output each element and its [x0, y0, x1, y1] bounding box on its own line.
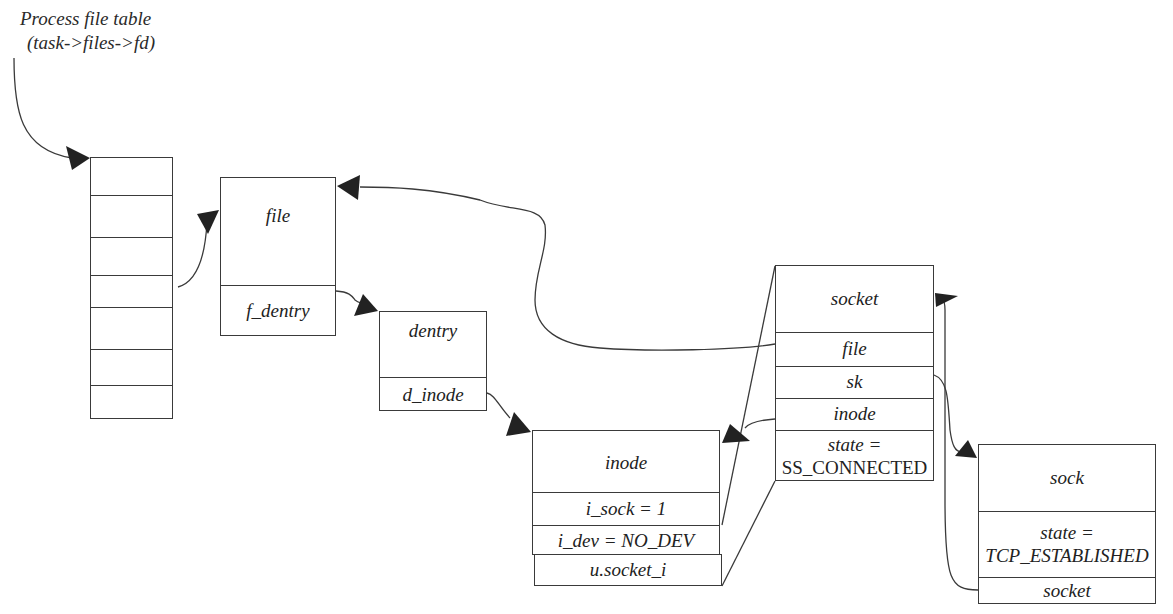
link-sk-to-sock: [934, 375, 962, 452]
link-caption-to-fdtable: [14, 58, 72, 158]
link-socketfile-to-file: [360, 187, 775, 350]
arrowhead-icon: [197, 210, 219, 234]
arrowhead-icon: [935, 293, 958, 307]
arrowhead-icon: [354, 294, 378, 316]
link-dinode-to-inode: [487, 393, 510, 418]
link-fd-to-file: [178, 222, 207, 287]
arrowhead-icon: [337, 175, 360, 200]
arrowhead-icon: [955, 440, 977, 458]
link-inode-socket-bottom: [722, 481, 775, 586]
link-inode-socket-top: [722, 266, 775, 525]
pointer-links: [0, 0, 1173, 614]
arrowhead-icon: [506, 412, 531, 436]
arrowhead-icon: [66, 146, 90, 170]
link-socksocket-to-socket: [942, 297, 978, 590]
link-socketinode-to-inode: [745, 419, 775, 428]
linux-socket-structure-diagram: Process file table (task->files->fd) fil…: [0, 0, 1173, 614]
